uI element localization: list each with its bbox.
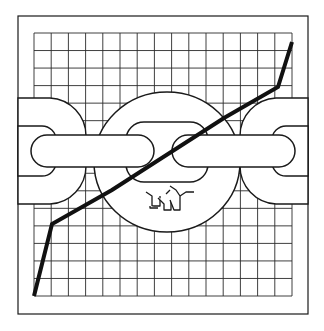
illustration-canvas: Chain link handshake over rising line ch… [0, 0, 324, 331]
illustration-svg [0, 0, 324, 331]
chain-bar-left [31, 135, 154, 167]
